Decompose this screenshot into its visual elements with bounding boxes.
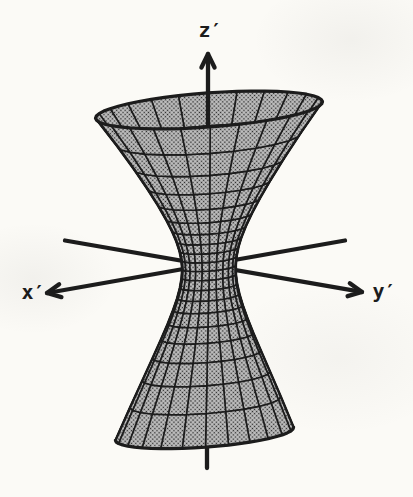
mesh-cell [209, 253, 217, 263]
mesh-cell [206, 412, 229, 447]
mesh-cell [201, 280, 209, 290]
mesh-cell [216, 279, 223, 290]
mesh-cell [209, 262, 216, 271]
x-axis-label: x′ [21, 280, 44, 304]
mesh-cell [209, 244, 218, 254]
mesh-cell [209, 270, 216, 280]
mesh-cell [181, 127, 210, 155]
mesh-cell [210, 174, 230, 194]
mesh-cell [190, 363, 207, 387]
mesh-cell [209, 233, 219, 244]
mesh-cell [199, 301, 208, 314]
mesh-cell [210, 192, 226, 209]
mesh-cell [194, 194, 210, 210]
mesh-cell [209, 290, 217, 302]
mesh-cell [208, 312, 218, 327]
mesh-cell [201, 244, 210, 254]
mesh-cell [207, 361, 224, 386]
mesh-cell [201, 290, 209, 301]
figure-stage: z′ x′ y′ [0, 0, 413, 497]
mesh-cell [196, 209, 209, 223]
mesh-cell [210, 151, 234, 175]
hyperboloid-figure [0, 0, 413, 497]
mesh-cell [182, 414, 206, 449]
mesh-cell [202, 262, 209, 271]
mesh-cell [209, 222, 220, 235]
mesh-cell [198, 313, 209, 328]
mesh-cell [206, 384, 226, 413]
mesh-cell [207, 342, 221, 362]
y-axis-label: y′ [372, 279, 395, 303]
mesh-cell [186, 153, 210, 176]
mesh-cell [195, 263, 202, 272]
mesh-cell [200, 234, 210, 245]
mesh-cell [202, 254, 210, 263]
mesh-cell [190, 175, 209, 194]
mesh-cell [193, 343, 207, 363]
z-axis-label: z′ [198, 18, 221, 42]
mesh-cell [208, 300, 217, 313]
mesh-cell [187, 386, 207, 415]
mesh-cell [196, 327, 208, 344]
x-axis-arrowhead [47, 293, 61, 297]
mesh-cell [202, 271, 209, 281]
mesh-cell [208, 326, 220, 343]
mesh-cell [216, 289, 224, 301]
mesh-cell [209, 280, 216, 291]
mesh-cell [198, 223, 209, 235]
mesh-cell [210, 208, 223, 223]
